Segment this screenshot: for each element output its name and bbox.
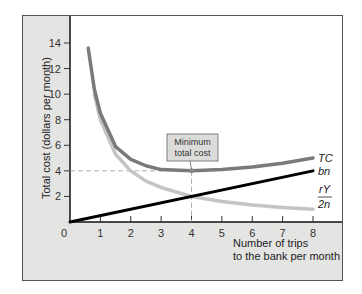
label-ry-numerator: rY	[319, 183, 331, 195]
label-ry-denominator: 2n	[317, 198, 330, 210]
x-axis-title-line-2: to the bank per month	[233, 250, 340, 262]
y-tick-label: 6	[55, 139, 61, 151]
x-tick-label: 8	[310, 227, 316, 239]
y-tick-label: 2	[55, 190, 61, 202]
x-tick-label: 4	[188, 227, 194, 239]
minimum-point-marker	[189, 168, 194, 173]
x-tick-label: 5	[219, 227, 225, 239]
label-tc: TC	[318, 152, 333, 164]
x-tick-label: 1	[97, 227, 103, 239]
x-tick-label: 3	[158, 227, 164, 239]
annotation-line-1: Minimum	[174, 137, 211, 147]
line-chart: 2468101214 012345678 Minimum total cost …	[0, 0, 362, 294]
plot-area	[70, 16, 342, 222]
y-tick-label: 14	[49, 37, 61, 49]
x-tick-label: 0	[61, 227, 67, 239]
y-axis-title: Total cost (dollars per month)	[40, 57, 52, 199]
y-tick-label: 4	[55, 165, 61, 177]
annotation-line-2: total cost	[174, 148, 211, 158]
label-bn: bn	[318, 165, 330, 177]
y-tick-label: 8	[55, 114, 61, 126]
x-axis-title-line-1: Number of trips	[233, 237, 309, 249]
x-tick-label: 2	[128, 227, 134, 239]
